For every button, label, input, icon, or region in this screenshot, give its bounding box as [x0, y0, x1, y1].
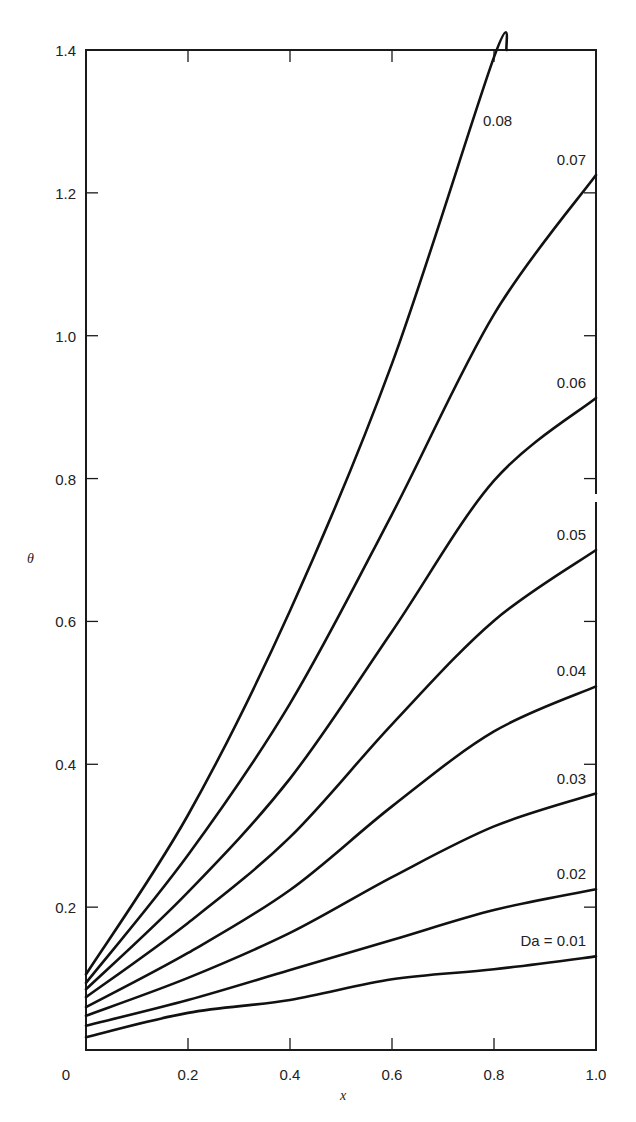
x-tick-label: 0.4 — [280, 1066, 301, 1083]
y-tick-label: 1.0 — [55, 328, 76, 345]
curve-label: Da = 0.01 — [521, 932, 586, 949]
curve-label: 0.04 — [557, 662, 586, 679]
curve-label: 0.07 — [557, 151, 586, 168]
curves — [86, 32, 596, 1037]
plot-frame — [86, 50, 596, 1050]
x-tick-label: 0.8 — [484, 1066, 505, 1083]
y-tick-label: 1.4 — [55, 42, 76, 59]
y-tick-label: 0.4 — [55, 756, 76, 773]
x-tick-label: 0 — [62, 1066, 70, 1083]
curve-label: 0.02 — [557, 865, 586, 882]
curve-label: 0.05 — [557, 526, 586, 543]
curve-label: 0.08 — [483, 112, 512, 129]
y-axis-label: θ — [27, 551, 34, 566]
curve-da-0.02 — [86, 889, 596, 1025]
curve-da-0.04 — [86, 686, 596, 1007]
plot-border — [86, 50, 596, 1050]
x-axis-label: x — [339, 1088, 347, 1103]
curve-label: 0.03 — [557, 770, 586, 787]
tick-labels: 00.20.40.60.81.00.20.40.60.81.01.21.4 — [55, 42, 606, 1083]
curve-label: 0.06 — [557, 374, 586, 391]
axis-gap — [594, 494, 598, 502]
curve-da-0.06 — [86, 398, 596, 989]
curve-da-0.05 — [86, 550, 596, 997]
x-tick-label: 1.0 — [586, 1066, 607, 1083]
y-tick-label: 1.2 — [55, 185, 76, 202]
y-tick-label: 0.8 — [55, 471, 76, 488]
y-tick-label: 0.6 — [55, 613, 76, 630]
y-tick-label: 0.2 — [55, 899, 76, 916]
x-tick-label: 0.6 — [382, 1066, 403, 1083]
curve-da-0.08 — [86, 32, 507, 974]
axis-ticks — [86, 50, 598, 1050]
curve-da-0.01 — [86, 956, 596, 1037]
chart: 00.20.40.60.81.00.20.40.60.81.01.21.4 Da… — [0, 0, 636, 1122]
curve-da-0.07 — [86, 175, 596, 983]
x-tick-label: 0.2 — [178, 1066, 199, 1083]
